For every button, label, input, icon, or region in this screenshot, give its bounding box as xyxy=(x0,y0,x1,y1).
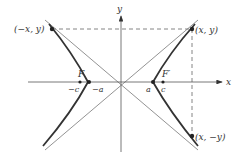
point-upper-left xyxy=(50,27,54,31)
neg-a-label: −a xyxy=(92,85,104,94)
hyperbola-right-branch xyxy=(153,24,198,146)
pos-a-label: a xyxy=(146,85,151,94)
neg-c-label: −c xyxy=(68,85,80,94)
pos-c-label: c xyxy=(161,85,166,94)
point-lower-right-label: (x, −y) xyxy=(195,132,226,142)
focus-left-label: F xyxy=(77,69,85,79)
y-axis-label: y xyxy=(116,4,123,14)
vertex-left xyxy=(87,80,91,84)
point-upper-right-label: (x, y) xyxy=(195,25,218,35)
vertex-right xyxy=(151,80,155,84)
focus-right xyxy=(161,80,164,83)
hyperbola-diagram: y x (−x, y) (x, y) (x, −y) F F′ −c −a a … xyxy=(0,0,242,156)
point-upper-right xyxy=(190,27,194,31)
hyperbola-left-branch xyxy=(43,24,88,146)
x-axis-label: x xyxy=(226,77,231,87)
focus-left xyxy=(78,80,81,83)
focus-right-label: F′ xyxy=(161,69,170,79)
point-lower-right xyxy=(190,134,194,138)
point-upper-left-label: (−x, y) xyxy=(14,24,45,34)
